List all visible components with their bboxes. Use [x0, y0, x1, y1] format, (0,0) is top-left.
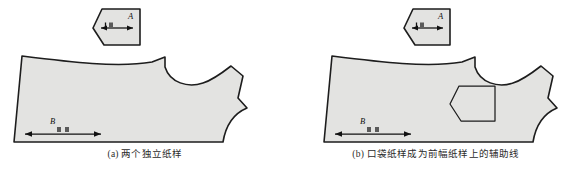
pocket-pattern-piece-b: A: [404, 9, 450, 45]
pocket-label-a: A: [127, 11, 134, 21]
figure-root: A B (a) 两个独立纸样: [0, 0, 581, 172]
panel-a-caption: (a) 两个独立纸样: [0, 148, 290, 161]
pocket-pattern-piece-a: A: [93, 9, 140, 45]
panel-a-drawing: A B: [0, 0, 290, 150]
pocket-label-b: A: [437, 11, 444, 21]
panel-b-caption: (b) 口袋纸样成为前幅纸样上的辅助线: [291, 148, 581, 161]
body-outline-shape-a: [14, 56, 247, 142]
figure-panel-b: A B (b) 口袋纸样成为前幅纸样上的: [291, 0, 581, 172]
body-pattern-piece-b: B: [324, 56, 557, 142]
body-label-a: B: [50, 116, 55, 126]
panel-b-drawing: A B: [291, 0, 581, 150]
body-label-b: B: [360, 116, 365, 126]
body-pattern-piece-a: B: [14, 56, 247, 142]
figure-panel-a: A B (a) 两个独立纸样: [0, 0, 290, 172]
body-outline-shape-b: [324, 56, 557, 142]
